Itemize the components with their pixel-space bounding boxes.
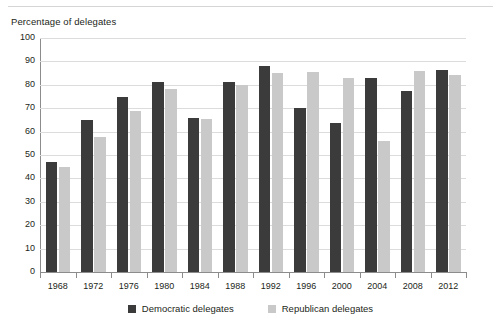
bar-democratic-2008 [401, 91, 413, 272]
x-axis-label-1980: 1980 [147, 281, 183, 291]
y-axis-tick-label: 90 [25, 56, 35, 65]
bar-democratic-1972 [81, 120, 93, 272]
top-divider [8, 6, 493, 7]
x-axis-tick [147, 273, 148, 278]
bar-republican-1972 [94, 137, 106, 272]
bar-democratic-1996 [294, 108, 306, 272]
bar-group [294, 38, 319, 272]
legend-label: Republican delegates [282, 303, 373, 314]
bar-republican-1984 [201, 119, 213, 272]
bar-group [46, 38, 71, 272]
bar-republican-2000 [343, 78, 355, 272]
x-axis-label-1988: 1988 [218, 281, 254, 291]
x-axis-label-2000: 2000 [324, 281, 360, 291]
bar-republican-1996 [307, 72, 319, 272]
bar-republican-2004 [378, 141, 390, 272]
legend-swatch-icon [128, 305, 136, 313]
bar-group [223, 38, 248, 272]
bar-democratic-1976 [117, 97, 129, 273]
bar-group [330, 38, 355, 272]
x-axis-label-1992: 1992 [253, 281, 289, 291]
bar-republican-1988 [236, 85, 248, 272]
x-axis-label-2004: 2004 [360, 281, 396, 291]
legend-item-dem[interactable]: Democratic delegates [128, 303, 234, 314]
bar-democratic-1992 [259, 66, 271, 272]
y-axis-tick-label: 50 [25, 150, 35, 159]
bar-democratic-1988 [223, 82, 235, 272]
y-axis-tick-label: 70 [25, 103, 35, 112]
bar-republican-1968 [59, 167, 71, 272]
bar-democratic-2000 [330, 123, 342, 272]
x-axis-tick [182, 273, 183, 278]
y-axis-tick-labels: 0102030405060708090100 [0, 0, 35, 332]
bar-democratic-1984 [188, 118, 200, 272]
x-axis-label-1972: 1972 [76, 281, 112, 291]
bar-group [259, 38, 284, 272]
x-axis-label-1996: 1996 [289, 281, 325, 291]
bar-group [152, 38, 177, 272]
bar-group [436, 38, 461, 272]
bar-group [188, 38, 213, 272]
x-axis-tick [111, 273, 112, 278]
bar-republican-2012 [449, 75, 461, 272]
x-axis-label-1976: 1976 [111, 281, 147, 291]
y-axis-tick-label: 40 [25, 173, 35, 182]
y-axis-tick-label: 10 [25, 244, 35, 253]
bar-chart: Percentage of delegates 0102030405060708… [0, 0, 501, 332]
x-axis-label-1968: 1968 [40, 281, 76, 291]
x-axis-tick [253, 273, 254, 278]
x-axis-tick [466, 273, 467, 278]
x-axis-tick [431, 273, 432, 278]
plot-area [40, 38, 466, 272]
y-axis-tick-label: 0 [30, 267, 35, 276]
legend-label: Democratic delegates [142, 303, 234, 314]
x-axis-tick [289, 273, 290, 278]
x-axis-tick [76, 273, 77, 278]
x-axis-label-2008: 2008 [395, 281, 431, 291]
bar-group [81, 38, 106, 272]
bar-group [117, 38, 142, 272]
bar-republican-1976 [130, 111, 142, 272]
y-axis-tick-label: 100 [20, 33, 35, 42]
bar-democratic-1968 [46, 162, 58, 272]
legend-item-rep[interactable]: Republican delegates [268, 303, 373, 314]
bar-republican-1980 [165, 89, 177, 272]
y-axis-tick-label: 60 [25, 127, 35, 136]
x-axis-label-1984: 1984 [182, 281, 218, 291]
x-axis-tick [324, 273, 325, 278]
y-axis-tick-label: 30 [25, 197, 35, 206]
bar-republican-2008 [414, 71, 426, 272]
x-axis-tick [395, 273, 396, 278]
y-axis-tick-label: 20 [25, 220, 35, 229]
x-axis-tick [360, 273, 361, 278]
chart-legend: Democratic delegatesRepublican delegates [0, 303, 501, 314]
bar-democratic-2004 [365, 78, 377, 272]
y-axis-tick-label: 80 [25, 80, 35, 89]
bar-group [365, 38, 390, 272]
x-axis-tick [40, 273, 41, 278]
bar-democratic-1980 [152, 82, 164, 272]
bar-republican-1992 [272, 73, 284, 272]
x-axis-tick [218, 273, 219, 278]
bar-democratic-2012 [436, 70, 448, 272]
bar-group [401, 38, 426, 272]
legend-swatch-icon [268, 305, 276, 313]
x-axis-label-2012: 2012 [431, 281, 467, 291]
